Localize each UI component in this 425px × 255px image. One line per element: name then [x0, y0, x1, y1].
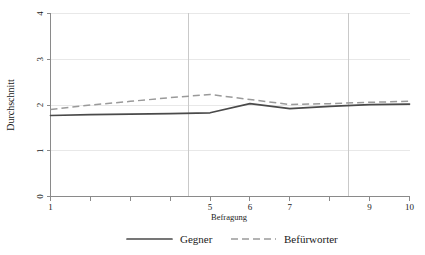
- chart-legend: Gegner Befürworter: [127, 233, 338, 245]
- legend-label-befuerworter: Befürworter: [284, 233, 338, 245]
- y-tick-label-4: 4: [35, 11, 45, 16]
- x-axis-label: Befragung: [211, 212, 248, 222]
- x-tick-label-6: 6: [248, 202, 253, 212]
- y-tick-label-1: 1: [35, 149, 45, 154]
- x-tick-group: 1567910: [48, 197, 414, 212]
- legend-label-gegner: Gegner: [180, 233, 213, 245]
- gridlines-group: [51, 14, 410, 151]
- chart-container: 01234 1567910 Durchschnitt Befragung Geg…: [0, 0, 425, 255]
- x-tick-label-1: 1: [48, 202, 53, 212]
- y-tick-label-0: 0: [35, 194, 45, 199]
- y-tick-group: 01234: [35, 11, 51, 199]
- x-tick-label-10: 10: [405, 202, 415, 212]
- x-tick-label-5: 5: [208, 202, 213, 212]
- x-tick-label-7: 7: [288, 202, 293, 212]
- line-chart: 01234 1567910 Durchschnitt Befragung Geg…: [0, 0, 425, 255]
- y-tick-label-3: 3: [35, 57, 45, 62]
- x-tick-label-9: 9: [367, 202, 372, 212]
- y-tick-label-2: 2: [35, 103, 45, 108]
- y-axis-label: Durchschnitt: [5, 79, 16, 131]
- series-line-befrworter: [51, 94, 410, 109]
